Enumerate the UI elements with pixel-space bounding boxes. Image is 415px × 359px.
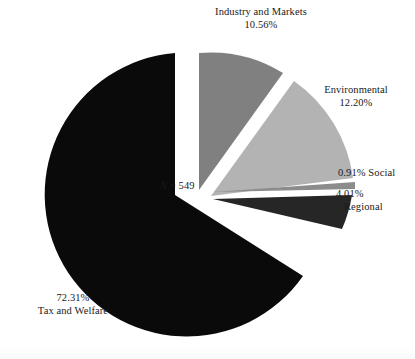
slice-label-regional-percent: 4.01%	[336, 188, 414, 201]
slice-label-environmental-percent: 12.20%	[302, 97, 410, 110]
pie-chart-figure: Industry and Markets 10.56% Environmenta…	[0, 0, 415, 359]
sample-size-equals: =	[167, 180, 178, 191]
slice-label-industry-and-markets-name: Industry and Markets	[186, 6, 336, 19]
slice-label-environmental: Environmental 12.20%	[302, 84, 410, 109]
slice-label-regional: 4.01% Regional	[336, 188, 414, 213]
slice-label-industry-and-markets-percent: 10.56%	[186, 19, 336, 32]
sample-size-value: 549	[179, 180, 195, 191]
slice-label-social-text: 0.91% Social	[338, 167, 414, 180]
slice-label-regional-name: Regional	[336, 201, 414, 214]
pie-slice-regional	[213, 195, 352, 229]
sample-size-annotation: N = 549	[160, 180, 195, 193]
slice-label-industry-and-markets: Industry and Markets 10.56%	[186, 6, 336, 31]
slice-label-tax-and-welfare-name: Tax and Welfare	[8, 305, 138, 318]
slice-label-tax-and-welfare-percent: 72.31%	[8, 292, 138, 305]
slice-label-tax-and-welfare: 72.31% Tax and Welfare	[8, 292, 138, 317]
slice-label-social: 0.91% Social	[338, 167, 414, 180]
slice-label-environmental-name: Environmental	[302, 84, 410, 97]
